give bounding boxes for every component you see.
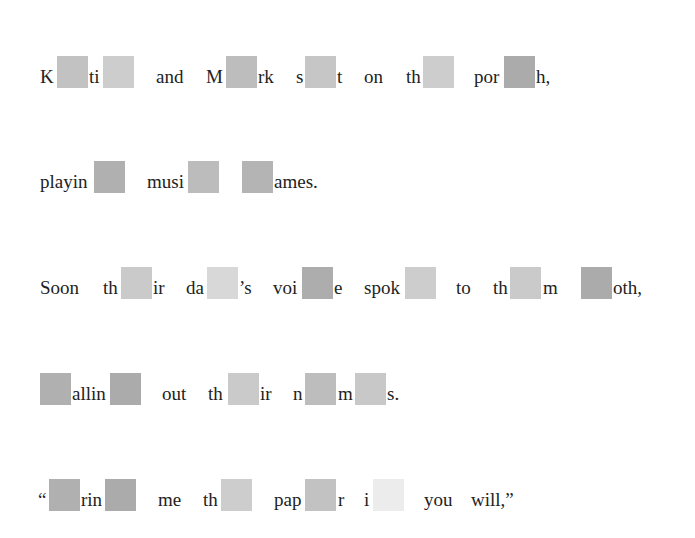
masked-letter-box <box>373 479 404 511</box>
masked-letter-box <box>188 161 219 193</box>
word-fragment: th <box>493 278 508 297</box>
word-fragment: you <box>424 490 453 509</box>
word-fragment: ir <box>260 384 272 403</box>
word-fragment: r <box>338 490 344 509</box>
word-fragment: n <box>293 384 303 403</box>
word-fragment: s. <box>387 384 399 403</box>
word-fragment: on <box>364 67 383 86</box>
masked-letter-box <box>423 56 454 88</box>
word-fragment: musi <box>147 172 184 191</box>
word-fragment: ames. <box>274 172 318 191</box>
word-fragment: Soon <box>40 278 79 297</box>
masked-letter-box <box>581 267 612 299</box>
word-fragment: e <box>334 278 342 297</box>
masked-letter-box <box>207 267 238 299</box>
word-fragment: will,” <box>471 490 514 509</box>
masked-letter-box <box>221 479 252 511</box>
masked-letter-box <box>510 267 541 299</box>
word-fragment: rk <box>258 67 274 86</box>
word-fragment: da <box>186 278 204 297</box>
word-fragment: me <box>158 490 181 509</box>
masked-letter-box <box>242 161 273 193</box>
masked-letter-box <box>228 373 259 405</box>
masked-letter-box <box>94 161 125 193</box>
masked-letter-box <box>305 373 336 405</box>
masked-letter-box <box>110 373 141 405</box>
word-fragment: i <box>364 490 369 509</box>
masked-letter-box <box>504 56 535 88</box>
masked-letter-box <box>226 56 257 88</box>
word-fragment: h, <box>536 67 550 86</box>
word-fragment: out <box>162 384 186 403</box>
masked-letter-box <box>305 56 336 88</box>
word-fragment: and <box>156 67 183 86</box>
word-fragment: M <box>206 67 223 86</box>
word-fragment: K <box>40 67 54 86</box>
masked-letter-box <box>405 267 436 299</box>
masked-letter-box <box>57 56 88 88</box>
masked-letter-box <box>305 479 336 511</box>
word-fragment: ti <box>89 67 100 86</box>
masked-letter-box <box>40 373 71 405</box>
word-fragment: th <box>406 67 421 86</box>
word-fragment: th <box>208 384 223 403</box>
masked-letter-box <box>355 373 386 405</box>
word-fragment: rin <box>81 490 102 509</box>
word-fragment: por <box>474 67 499 86</box>
word-fragment: oth, <box>613 278 642 297</box>
word-fragment: voi <box>273 278 297 297</box>
word-fragment: pap <box>274 490 301 509</box>
word-fragment: m <box>543 278 558 297</box>
word-fragment: to <box>456 278 471 297</box>
word-fragment: allin <box>72 384 106 403</box>
word-fragment: spok <box>364 278 400 297</box>
word-fragment: ir <box>153 278 165 297</box>
masked-letter-box <box>105 479 136 511</box>
word-fragment: playin <box>40 172 88 191</box>
word-fragment: th <box>103 278 118 297</box>
word-fragment: s <box>296 67 303 86</box>
word-fragment: t <box>337 67 342 86</box>
word-fragment: th <box>203 490 218 509</box>
word-fragment: ’s <box>239 278 252 297</box>
masked-letter-box <box>121 267 152 299</box>
masked-letter-box <box>49 479 80 511</box>
word-fragment: m <box>338 384 353 403</box>
masked-letter-box <box>103 56 134 88</box>
word-fragment: “ <box>38 490 46 509</box>
masked-letter-box <box>302 267 333 299</box>
